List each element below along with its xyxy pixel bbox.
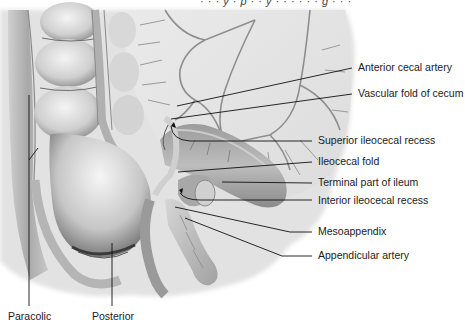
label-vascular-fold-of-cecum: Vascular fold of cecum [358,88,463,99]
label-appendicular-artery: Appendicular artery [318,250,409,261]
label-terminal-part-of-ileum: Terminal part of ileum [318,177,418,188]
label-mesoappendix: Mesoappendix [318,226,386,237]
label-anterior-cecal-artery: Anterior cecal artery [358,62,452,73]
cropped-caption-text: · · · y · p · · y · · · · · · g · · · [200,0,352,7]
label-ileocecal-fold: Ileocecal fold [318,156,379,167]
anatomy-illustration [0,0,465,320]
label-posterior: Posterior [92,311,134,320]
label-paracolic: Paracolic [8,311,51,320]
label-interior-ileocecal-recess: Interior ileocecal recess [318,195,428,206]
label-superior-ileocecal-recess: Superior ileocecal recess [318,135,435,146]
